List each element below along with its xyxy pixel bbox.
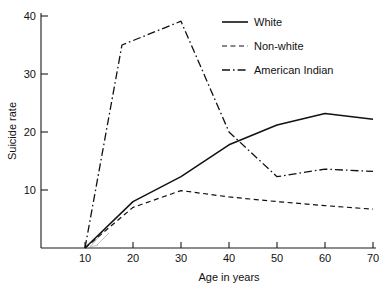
x-tick-label-60: 60 [319, 252, 331, 264]
chart-figure: 40 30 20 10 10 20 30 40 50 60 70 Age in … [0, 0, 383, 290]
y-tick-label-10: 10 [24, 184, 36, 196]
series-line-american-indian [85, 21, 373, 248]
legend-label-non-white: Non-white [254, 40, 304, 52]
y-tick-label-20: 20 [24, 126, 36, 138]
x-axis-title: Age in years [198, 271, 260, 283]
line-chart: 40 30 20 10 10 20 30 40 50 60 70 Age in … [0, 0, 383, 290]
legend-label-american-indian: American Indian [254, 64, 334, 76]
legend: White Non-white American Indian [222, 16, 334, 76]
x-tick-label-20: 20 [127, 252, 139, 264]
y-tick-label-40: 40 [24, 10, 36, 22]
series-line-non-white [85, 191, 373, 248]
y-tick-label-30: 30 [24, 68, 36, 80]
x-tick-label-10: 10 [79, 252, 91, 264]
y-tick-group: 40 30 20 10 [24, 10, 48, 196]
x-tick-label-40: 40 [223, 252, 235, 264]
x-tick-group: 10 20 30 40 50 60 70 [79, 242, 379, 264]
x-tick-label-30: 30 [175, 252, 187, 264]
x-tick-label-50: 50 [271, 252, 283, 264]
x-tick-label-70: 70 [367, 252, 379, 264]
y-axis-title: Suicide rate [6, 102, 18, 160]
series-line-white [85, 113, 373, 248]
series-group [85, 21, 373, 248]
legend-label-white: White [254, 16, 282, 28]
